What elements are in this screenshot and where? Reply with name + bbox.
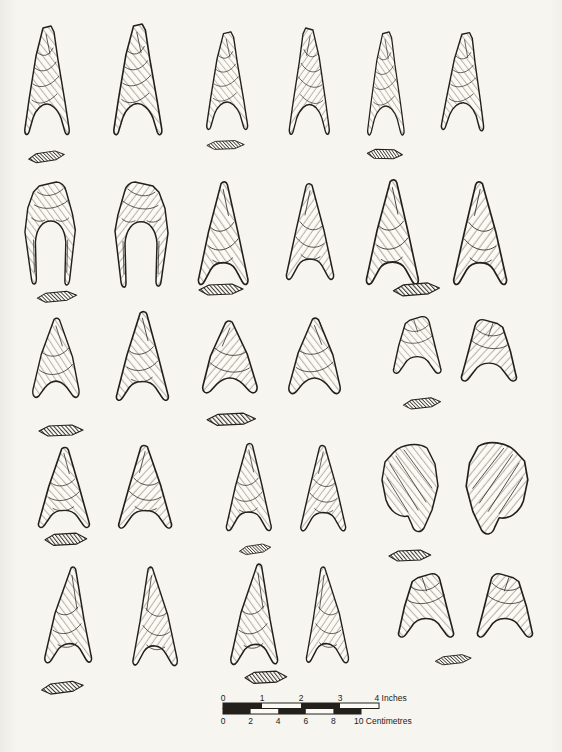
arrowhead-plate-figure: 0 1 2 3 4 Inches 0 2 4 6 8 10 Centimetre…	[0, 0, 562, 752]
cm-tick-0: 0	[221, 716, 226, 726]
arrowhead-r3c6	[461, 320, 516, 381]
cm-tick-8: 8	[331, 716, 336, 726]
arrowhead-r4c4	[301, 446, 346, 531]
arrowhead-r4c1	[38, 447, 89, 527]
cross-section-r1-2	[207, 141, 244, 150]
cross-section-r2-3	[393, 283, 440, 297]
cross-section-r1-1	[28, 150, 65, 164]
arrowhead-r3c4	[289, 318, 340, 393]
arrowhead-r2c5	[367, 180, 419, 284]
arrowhead-r5c4	[306, 567, 348, 663]
arrowhead-r2c4	[286, 184, 333, 280]
cross-section-r4-3	[389, 550, 431, 561]
arrowhead-r1c6	[441, 32, 487, 131]
scanned-figure-page: 0 1 2 3 4 Inches 0 2 4 6 8 10 Centimetre…	[0, 0, 562, 752]
arrowhead-r1c5	[368, 32, 404, 135]
cross-section-r5-1	[435, 654, 472, 665]
scale-bar-inches: 0 1 2 3 4 Inches	[221, 693, 407, 709]
cross-section-r1-3	[367, 148, 403, 160]
arrowhead-r1c4	[289, 28, 329, 134]
arrowhead-r2c3	[198, 182, 247, 285]
cross-section-r4-1	[45, 533, 87, 545]
arrowhead-r4c3	[226, 444, 271, 531]
cross-section-r3-3	[403, 397, 441, 409]
scale-bar-centimetres: 0 2 4 6 8 10 Centimetres	[221, 709, 412, 727]
cross-section-r2-1	[37, 291, 77, 303]
cross-section-r5-3	[41, 680, 84, 695]
cm-tick-4: 4	[276, 716, 281, 726]
cross-section-r5-2	[245, 671, 287, 683]
arrowhead-r5c3	[231, 564, 278, 664]
inch-tick-3: 3	[338, 693, 343, 703]
inch-tick-2: 2	[299, 693, 304, 703]
arrowhead-r3c5	[394, 317, 441, 374]
arrowhead-r2c2	[115, 182, 168, 287]
cross-section-r4-2	[239, 543, 271, 555]
arrowhead-r2c1	[25, 182, 75, 285]
arrowhead-r5c1	[45, 567, 92, 663]
arrowhead-r5c6	[477, 574, 532, 637]
cm-tick-6: 6	[303, 716, 308, 726]
arrowhead-r1c3	[207, 32, 248, 130]
cm-tick-2: 2	[248, 716, 253, 726]
arrowhead-r5c2	[133, 567, 177, 665]
arrowhead-r2c6	[454, 182, 507, 285]
inch-tick-1: 1	[260, 693, 265, 703]
cross-section-r3-1	[39, 425, 83, 436]
arrowhead-r3c3	[203, 321, 257, 393]
cross-section-r2-2	[199, 284, 243, 295]
scale-bar: 0 1 2 3 4 Inches 0 2 4 6 8 10 Centimetre…	[221, 693, 412, 726]
arrowhead-r3c2	[117, 312, 169, 401]
arrowhead-r1c2	[114, 24, 162, 135]
arrowhead-r1c1	[25, 26, 69, 135]
cross-section-r3-2	[207, 413, 255, 425]
arrowhead-r4c5	[382, 445, 438, 532]
inch-tick-0: 0	[221, 693, 226, 703]
arrowhead-r4c6	[466, 443, 528, 534]
arrowhead-r4c2	[119, 446, 172, 529]
arrowhead-r3c1	[33, 318, 79, 397]
arrowhead-r5c5	[399, 574, 454, 637]
inch-end-label: 4 Inches	[375, 693, 407, 703]
cm-end-label: 10 Centimetres	[354, 716, 412, 726]
